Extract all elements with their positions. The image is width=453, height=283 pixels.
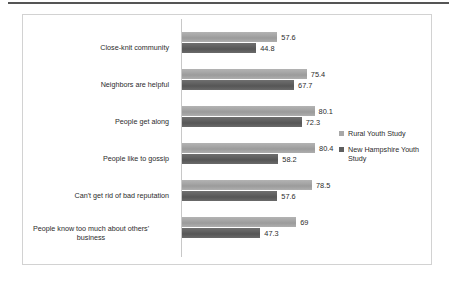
bar-value-label: 75.4 <box>311 70 325 79</box>
chart-legend: Rural Youth StudyNew Hampshire Youth Stu… <box>339 129 431 170</box>
bar-value-label: 80.1 <box>319 107 333 116</box>
legend-item[interactable]: Rural Youth Study <box>339 129 431 139</box>
chart-category-group: People know too much about others' busin… <box>23 214 431 251</box>
category-label: Neighbors are helpful <box>13 80 169 90</box>
category-label: People know too much about others' busin… <box>13 223 169 242</box>
bar-value-label: 67.7 <box>298 81 312 90</box>
category-label: People get along <box>13 117 169 127</box>
bar-rural-youth-study <box>182 217 296 227</box>
bar-rural-youth-study <box>182 32 277 42</box>
bar-rural-youth-study <box>182 106 315 116</box>
bar-new-hampshire-youth-study <box>182 228 260 238</box>
bar-value-label: 80.4 <box>319 144 333 153</box>
bar-value-label: 69 <box>300 218 308 227</box>
chart-category-group: Neighbors are helpful75.467.7 <box>23 66 431 103</box>
bar-value-label: 47.3 <box>264 229 278 238</box>
bar-new-hampshire-youth-study <box>182 80 294 90</box>
bar-new-hampshire-youth-study <box>182 117 302 127</box>
chart-category-group: Close-knit community57.644.8 <box>23 29 431 66</box>
category-label: Close-knit community <box>13 43 169 53</box>
bar-value-label: 57.6 <box>281 192 295 201</box>
legend-label: Rural Youth Study <box>348 129 406 138</box>
bar-rural-youth-study <box>182 143 315 153</box>
bar-value-label: 57.6 <box>281 33 295 42</box>
category-label: Can't get rid of bad reputation <box>13 191 169 201</box>
bar-new-hampshire-youth-study <box>182 154 278 164</box>
bar-value-label: 58.2 <box>282 155 296 164</box>
legend-item[interactable]: New Hampshire Youth Study <box>339 145 431 164</box>
legend-swatch-icon <box>339 131 344 136</box>
bar-new-hampshire-youth-study <box>182 43 256 53</box>
category-label: People like to gossip <box>13 154 169 164</box>
bar-value-label: 44.8 <box>260 44 274 53</box>
page-top-rule <box>8 2 449 4</box>
bar-value-label: 78.5 <box>316 181 330 190</box>
bar-new-hampshire-youth-study <box>182 191 277 201</box>
bar-value-label: 72.3 <box>306 118 320 127</box>
legend-swatch-icon <box>339 147 344 152</box>
chart-category-group: Can't get rid of bad reputation78.557.6 <box>23 177 431 214</box>
chart-container: Close-knit community57.644.8Neighbors ar… <box>22 14 432 265</box>
bar-rural-youth-study <box>182 69 307 79</box>
bar-rural-youth-study <box>182 180 312 190</box>
legend-label: New Hampshire Youth Study <box>348 145 419 164</box>
